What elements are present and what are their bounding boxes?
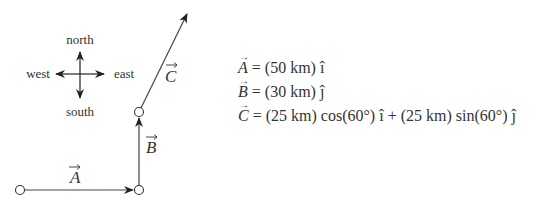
west-label: west — [26, 66, 50, 81]
vector-a-label: A — [69, 168, 81, 187]
point-after-b — [135, 108, 144, 117]
equations-block: A = (50 km) î B = (30 km) ĵ C = (25 km) … — [238, 56, 516, 128]
point-after-a — [135, 186, 144, 195]
vector-b-label: B — [146, 138, 157, 157]
equation-rhs: = (30 km) ĵ — [252, 83, 325, 100]
equation-b: B = (30 km) ĵ — [238, 80, 516, 104]
equation-a: A = (50 km) î — [238, 56, 516, 80]
east-label: east — [114, 66, 135, 81]
vector-c: C — [141, 14, 187, 108]
vector-c-label: C — [165, 67, 177, 86]
vector-b: B — [139, 118, 157, 186]
start-point — [16, 186, 25, 195]
south-label: south — [66, 104, 95, 119]
north-label: north — [66, 32, 94, 47]
equation-rhs: = (50 km) î — [252, 59, 325, 76]
compass-rose: north south east west — [26, 32, 134, 119]
equation-lhs: C — [238, 104, 249, 128]
equation-c: C = (25 km) cos(60°) î + (25 km) sin(60°… — [238, 104, 516, 128]
vector-a: A — [24, 165, 133, 191]
equation-rhs: = (25 km) cos(60°) î + (25 km) sin(60°) … — [253, 107, 516, 124]
